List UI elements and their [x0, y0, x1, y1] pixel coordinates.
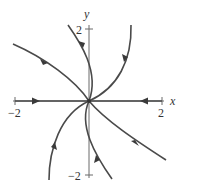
- y-tick-label-2: 2: [76, 23, 82, 37]
- trajectory-upper-right: [89, 25, 131, 101]
- x-axis-label: x: [169, 94, 176, 108]
- arrow-right-axis-icon: [140, 98, 148, 105]
- phase-portrait: y x −2 2 2 −2: [0, 0, 218, 195]
- y-tick-label-neg2: −2: [68, 169, 81, 183]
- y-axis-label: y: [83, 7, 90, 21]
- x-tick-label-2: 2: [158, 106, 164, 120]
- arrow-left-axis-icon: [32, 98, 40, 105]
- equilibrium-point: [87, 99, 91, 103]
- x-tick-label-neg2: −2: [8, 106, 21, 120]
